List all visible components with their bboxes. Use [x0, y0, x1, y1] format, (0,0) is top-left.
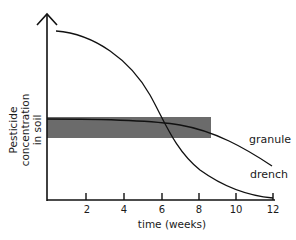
granule-label: granule [249, 133, 291, 146]
drench-label: drench [250, 168, 288, 181]
x-tick-label: 10 [230, 204, 243, 215]
drench-curve [56, 31, 273, 198]
x-ticks [86, 193, 273, 200]
x-tick-label: 12 [267, 204, 280, 215]
chart: 2 4 6 8 10 12 time (weeks) granule drenc… [0, 0, 296, 240]
x-tick-label: 2 [84, 204, 90, 215]
x-tick-label: 4 [121, 204, 127, 215]
y-axis-label-line2: concentration [19, 94, 31, 167]
x-tick-label: 6 [159, 204, 165, 215]
y-axis-label-line3: in soil [31, 115, 43, 146]
x-axis-label: time (weeks) [138, 218, 206, 230]
x-tick-label: 8 [196, 204, 202, 215]
y-axis-label-line1: Pesticide [7, 107, 19, 154]
